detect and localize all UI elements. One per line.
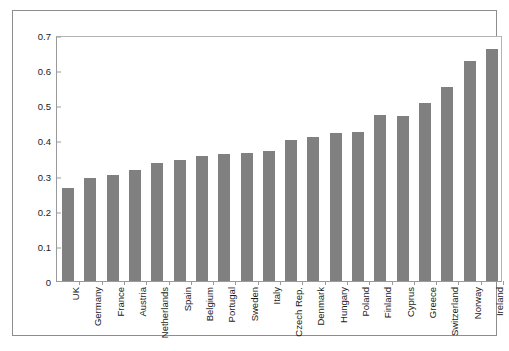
x-axis-tick-label: Cyprus [406, 287, 416, 317]
x-axis-tick-label: Netherlands [160, 287, 170, 338]
bar [374, 115, 386, 281]
y-axis-tick-label: 0.5 [38, 103, 57, 113]
x-axis-tick-mark [503, 281, 504, 285]
x-axis-category-labels: UKGermanyFranceAustriaNetherlandsSpainBe… [56, 283, 502, 345]
x-axis-tick-label: UK [71, 287, 81, 300]
bar [352, 132, 364, 281]
bar [151, 163, 163, 281]
x-axis-tick-label: Belgium [205, 287, 215, 321]
bar [62, 188, 74, 281]
bar [84, 178, 96, 281]
bar [107, 175, 119, 281]
bar [285, 140, 297, 281]
y-axis-tick-label: 0.2 [38, 208, 57, 218]
y-axis-tick-label: 0.1 [38, 243, 57, 253]
bar [129, 170, 141, 281]
x-axis-tick-label: Spain [183, 287, 193, 311]
bar [464, 61, 476, 281]
bar [174, 160, 186, 281]
bar [263, 151, 275, 281]
y-axis-tick-label: 0.3 [38, 173, 57, 183]
plot-area: 00.10.20.30.40.50.60.7 [56, 36, 502, 282]
y-axis-tick-label: 0.7 [38, 32, 57, 42]
bar-series [57, 37, 501, 281]
y-axis-tick-label: 0.4 [38, 138, 57, 148]
x-axis-tick-label: Greece [428, 287, 438, 318]
bar [196, 156, 208, 281]
bar [241, 153, 253, 281]
bar [307, 137, 319, 281]
bar [486, 49, 498, 281]
bar [218, 154, 230, 281]
x-axis-tick-label: Germany [93, 287, 103, 326]
bar [441, 87, 453, 281]
figure-border: 00.10.20.30.40.50.60.7 UKGermanyFranceAu… [12, 10, 497, 336]
x-axis-tick-label: France [116, 287, 126, 317]
x-axis-tick-label: Austria [138, 287, 148, 317]
x-axis-tick-label: Switzerland [450, 287, 460, 336]
x-axis-tick-label: Hungary [339, 287, 349, 323]
x-axis-tick-label: Poland [361, 287, 371, 317]
bar [397, 116, 409, 281]
x-axis-tick-label: Czech Rep. [294, 287, 304, 337]
bar [330, 133, 342, 281]
x-axis-tick-label: Norway [473, 287, 483, 319]
x-axis-tick-label: Denmark [316, 287, 326, 326]
x-axis-tick-label: Italy [272, 287, 282, 304]
y-axis-tick-label: 0.6 [38, 67, 57, 77]
x-axis-tick-label: Finland [383, 287, 393, 318]
chart-figure: 00.10.20.30.40.50.60.7 UKGermanyFranceAu… [0, 0, 509, 351]
bar [419, 103, 431, 281]
x-axis-tick-label: Sweden [250, 287, 260, 321]
x-axis-tick-label: Ireland [495, 287, 505, 316]
x-axis-tick-label: Portugal [227, 287, 237, 322]
